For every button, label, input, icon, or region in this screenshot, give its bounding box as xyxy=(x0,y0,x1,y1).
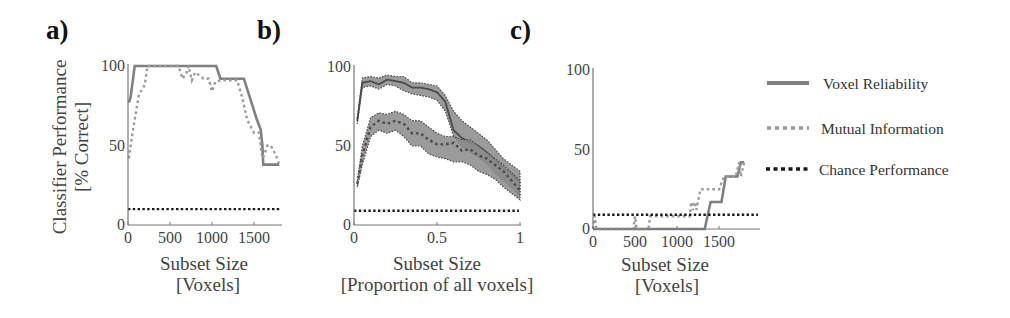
y-tick-label: 0 xyxy=(117,216,125,233)
panel-a-axes: 050010001500050100 xyxy=(101,57,282,246)
x-tick-label: 1500 xyxy=(238,229,270,246)
y-tick-label: 0 xyxy=(343,216,351,233)
panel-c-lines xyxy=(593,162,758,229)
voxel-reliability-line xyxy=(129,66,279,165)
panel-a-label: a) xyxy=(46,15,69,45)
panel-b-bands xyxy=(354,75,520,211)
x-tick-label: 0 xyxy=(124,229,132,246)
panel-a-plot: 050010001500050100 xyxy=(101,57,282,246)
x-tick-label: 0.5 xyxy=(427,229,447,246)
y-tick-label: 100 xyxy=(327,58,351,75)
panel-c-label: c) xyxy=(510,15,531,45)
x-tick-label: 500 xyxy=(158,229,182,246)
panel-c-plot: 050010001500050100 xyxy=(566,61,760,250)
legend-label-voxel-reliability: Voxel Reliability xyxy=(823,75,928,92)
panel-a-ylabel: Classifier Performance xyxy=(49,60,70,235)
legend-item-voxel-reliability: Voxel Reliability xyxy=(767,75,928,92)
legend: Voxel Reliability Mutual Information Cha… xyxy=(766,75,949,178)
y-tick-label: 0 xyxy=(582,220,590,237)
panel-b-xlabel: Subset Size xyxy=(393,253,481,274)
legend-label-mutual-information: Mutual Information xyxy=(821,120,944,137)
panel-c-xlabel-units: [Voxels] xyxy=(635,275,699,296)
panel-b-xlabel-units: [Proportion of all voxels] xyxy=(341,274,534,295)
y-tick-label: 50 xyxy=(109,137,125,154)
panel-a-ylabel-units: [% Correct] xyxy=(71,102,92,192)
x-tick-label: 0 xyxy=(589,233,597,250)
voxel-reliability-line xyxy=(593,162,744,229)
panel-a-xlabel-units: [Voxels] xyxy=(176,274,240,295)
panel-a-xlabel: Subset Size xyxy=(160,253,248,274)
y-tick-label: 100 xyxy=(566,61,590,78)
panel-b-plot: 00.51050100 xyxy=(327,58,524,246)
x-tick-label: 1 xyxy=(516,229,524,246)
legend-item-mutual-information: Mutual Information xyxy=(767,120,944,137)
panel-a-lines xyxy=(128,66,280,209)
legend-item-chance-performance: Chance Performance xyxy=(766,161,949,178)
x-tick-label: 1500 xyxy=(703,233,735,250)
y-tick-label: 100 xyxy=(101,57,125,74)
y-tick-label: 50 xyxy=(335,137,351,154)
x-tick-label: 1000 xyxy=(196,229,228,246)
legend-label-chance-performance: Chance Performance xyxy=(819,161,949,178)
panel-c-xlabel: Subset Size xyxy=(621,254,709,275)
y-tick-label: 50 xyxy=(574,141,590,158)
x-tick-label: 0 xyxy=(350,229,358,246)
x-tick-label: 1000 xyxy=(661,233,693,250)
figure: a) b) c) 050010001500050100 Classifier P… xyxy=(0,0,1010,318)
x-tick-label: 500 xyxy=(623,233,647,250)
panel-b-label: b) xyxy=(257,15,281,45)
